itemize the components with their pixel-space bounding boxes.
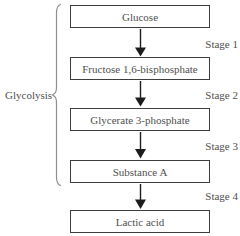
flow-box-glucose: Glucose [70,5,210,28]
glycolysis-brace [53,5,61,186]
arrow-stage-3 [135,132,146,159]
flow-box-fructose-16-bisphosphate: Fructose 1,6-bisphosphate [70,57,210,80]
stage-3-label: Stage 3 [194,140,238,153]
glycolysis-flowchart: Glycolysis Glucose Fructose 1,6-bisphosp… [0,0,240,236]
stage-4-label: Stage 4 [194,190,238,203]
flow-box-substance-a: Substance A [70,160,210,183]
arrow-stage-1 [135,29,146,57]
arrow-stage-4 [135,184,146,209]
glycolysis-label: Glycolysis [5,89,52,102]
stage-2-label: Stage 2 [194,89,238,102]
flow-box-lactic-acid: Lactic acid [70,210,210,233]
flow-box-glycerate-3-phosphate: Glycerate 3-phosphate [70,108,210,131]
arrow-stage-2 [135,81,146,107]
stage-1-label: Stage 1 [194,38,238,51]
